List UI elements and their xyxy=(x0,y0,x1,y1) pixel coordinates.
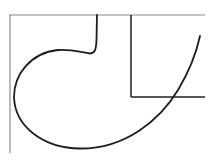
diagram-canvas xyxy=(0,0,215,162)
